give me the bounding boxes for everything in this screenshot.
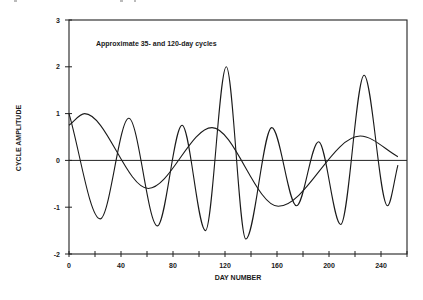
y-tick-label: 3 <box>56 17 60 24</box>
series-group <box>69 67 398 239</box>
x-tick-label: 80 <box>169 262 177 269</box>
y-tick-label: 0 <box>56 157 60 164</box>
x-tick-label: 120 <box>219 262 231 269</box>
x-axis-title: DAY NUMBER <box>215 274 262 281</box>
series-35-day-cycle <box>69 67 398 239</box>
y-axis-title: CYCLE AMPLITUDE <box>15 105 22 172</box>
y-tick-label: 1 <box>56 110 60 117</box>
y-tick-label: 2 <box>56 63 60 70</box>
x-tick-label: 160 <box>271 262 283 269</box>
cropped-caption-fragments <box>14 0 136 2</box>
y-tick-label: -1 <box>54 204 60 211</box>
x-tick-label: 0 <box>67 262 71 269</box>
x-tick-label: 200 <box>323 262 335 269</box>
x-tick-label: 240 <box>375 262 387 269</box>
x-tick-label: 40 <box>117 262 125 269</box>
chart: 04080120160200240 -2-10123 Approximate 3… <box>0 0 423 300</box>
chart-annotation: Approximate 35- and 120-day cycles <box>96 40 217 48</box>
y-tick-label: -2 <box>54 251 60 258</box>
